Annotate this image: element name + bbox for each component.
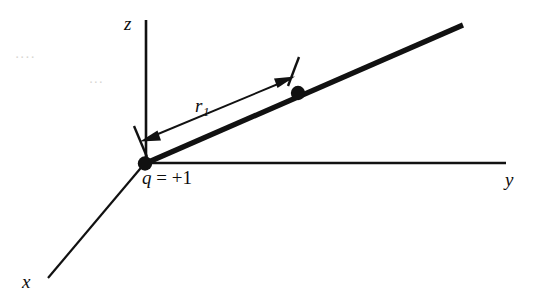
distance-subscript: 1: [203, 104, 210, 119]
dimension-arrowhead-left: [140, 131, 161, 142]
coordinate-diagram: [0, 0, 534, 304]
charge-symbol: q: [142, 167, 152, 188]
dimension-tick-far: [288, 57, 299, 86]
field-point-dot: [291, 86, 305, 100]
distance-label-r1: r1: [195, 96, 209, 118]
distance-symbol: r: [195, 95, 202, 116]
y-axis-label: y: [505, 170, 513, 189]
dimension-arrowhead-right: [274, 77, 295, 89]
figure-canvas: .... ... z y x r1 q = +1: [0, 0, 534, 304]
charge-value: +1: [172, 167, 192, 188]
z-axis-label: z: [124, 14, 131, 33]
charge-equals: =: [152, 167, 172, 188]
x-axis-line: [48, 163, 145, 278]
x-axis-label: x: [22, 272, 30, 291]
charge-label: q = +1: [142, 168, 192, 187]
